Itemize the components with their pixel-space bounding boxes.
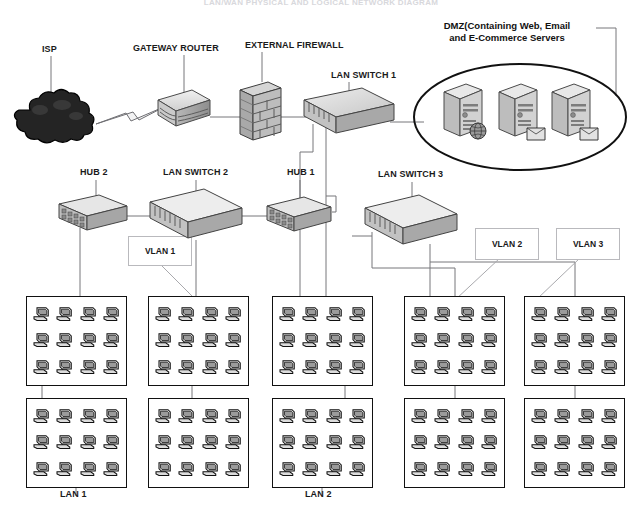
envelope-icon <box>527 128 545 140</box>
pc-icon <box>103 435 120 450</box>
pc-icon <box>554 360 571 375</box>
label-gateway-router: GATEWAY ROUTER <box>133 43 219 54</box>
lan-cluster-box[interactable] <box>148 398 249 488</box>
pc-icon <box>202 462 219 477</box>
pc-icon <box>80 462 97 477</box>
pc-icon <box>103 333 120 348</box>
pc-icon <box>103 462 120 477</box>
pc-icon <box>56 360 73 375</box>
pc-icon <box>326 360 343 375</box>
pc-icon <box>178 462 195 477</box>
pc-icon <box>33 307 50 322</box>
pc-icon <box>302 462 319 477</box>
pc-icon <box>554 333 571 348</box>
label-dmz: DMZ(Containing Web, Email and E-Commerce… <box>417 20 597 44</box>
pc-icon <box>225 360 242 375</box>
pc-icon <box>411 333 428 348</box>
pc-icon <box>80 333 97 348</box>
pc-icon <box>202 307 219 322</box>
pc-icon <box>225 409 242 424</box>
pc-icon <box>578 462 595 477</box>
web-server-icon[interactable] <box>438 80 494 142</box>
lan-switch-2-icon[interactable] <box>146 186 248 248</box>
pc-icon <box>225 462 242 477</box>
pc-icon <box>349 333 366 348</box>
pc-icon <box>411 462 428 477</box>
pc-icon <box>349 435 366 450</box>
pc-icon <box>578 360 595 375</box>
pc-icon <box>202 360 219 375</box>
label-lan-switch-2: LAN SWITCH 2 <box>163 167 228 178</box>
lan-cluster-box[interactable] <box>272 296 373 386</box>
pc-icon <box>601 307 618 322</box>
vlan-box-3[interactable]: VLAN 3 <box>556 228 620 260</box>
lan-cluster-box[interactable] <box>524 398 625 488</box>
lan-cluster-box[interactable] <box>404 398 505 488</box>
pc-icon <box>434 360 451 375</box>
pc-icon <box>434 333 451 348</box>
pc-icon <box>326 333 343 348</box>
pc-icon <box>178 409 195 424</box>
pc-icon <box>302 333 319 348</box>
pc-icon <box>279 360 296 375</box>
ecommerce-server-icon[interactable] <box>546 80 602 142</box>
pc-icon <box>481 409 498 424</box>
isp-cloud-icon[interactable] <box>10 88 96 148</box>
label-external-firewall: EXTERNAL FIREWALL <box>245 40 344 51</box>
pc-icon <box>481 462 498 477</box>
pc-icon <box>411 435 428 450</box>
pc-icon <box>458 307 475 322</box>
pc-icon <box>578 307 595 322</box>
pc-icon <box>302 409 319 424</box>
label-lan-switch-1: LAN SWITCH 1 <box>331 70 396 81</box>
pc-icon <box>326 307 343 322</box>
pc-icon <box>56 307 73 322</box>
hub-1-icon[interactable] <box>263 194 337 240</box>
pc-icon <box>155 333 172 348</box>
leader-vlan-3 <box>536 258 580 300</box>
lan-switch-1-icon[interactable] <box>300 86 400 144</box>
pc-icon <box>601 462 618 477</box>
lan-cluster-box[interactable] <box>26 296 127 386</box>
pc-icon <box>531 360 548 375</box>
label-lan-switch-3: LAN SWITCH 3 <box>378 169 443 180</box>
pc-icon <box>33 360 50 375</box>
pc-icon <box>326 409 343 424</box>
pc-icon <box>349 409 366 424</box>
pc-icon <box>202 435 219 450</box>
lan-cluster-box[interactable] <box>272 398 373 488</box>
pc-icon <box>225 333 242 348</box>
gateway-router-icon[interactable] <box>148 86 214 136</box>
lan-cluster-box[interactable] <box>404 296 505 386</box>
pc-icon <box>33 409 50 424</box>
label-dmz-line-1: DMZ(Containing Web, Email <box>417 20 597 32</box>
pc-icon <box>279 409 296 424</box>
hub-2-icon[interactable] <box>55 192 133 240</box>
vlan-box-2[interactable]: VLAN 2 <box>475 228 539 260</box>
pc-icon <box>458 435 475 450</box>
pc-icon <box>80 409 97 424</box>
leader-vlan-1 <box>160 264 196 300</box>
pc-icon <box>531 462 548 477</box>
pc-icon <box>531 435 548 450</box>
pc-icon <box>411 360 428 375</box>
pc-icon <box>302 435 319 450</box>
pc-icon <box>349 360 366 375</box>
external-firewall-icon[interactable] <box>235 78 287 148</box>
pc-icon <box>279 435 296 450</box>
lan-cluster-box[interactable] <box>524 296 625 386</box>
pc-icon <box>578 435 595 450</box>
pc-icon <box>458 409 475 424</box>
lan-cluster-box[interactable] <box>26 398 127 488</box>
pc-icon <box>80 360 97 375</box>
pc-icon <box>33 462 50 477</box>
email-server-icon[interactable] <box>493 80 549 142</box>
pc-icon <box>434 462 451 477</box>
lan-cluster-box[interactable] <box>148 296 249 386</box>
pc-icon <box>349 462 366 477</box>
pc-icon <box>458 360 475 375</box>
pc-icon <box>103 360 120 375</box>
pc-icon <box>225 435 242 450</box>
lan-switch-3-icon[interactable] <box>361 190 463 252</box>
pc-icon <box>481 360 498 375</box>
